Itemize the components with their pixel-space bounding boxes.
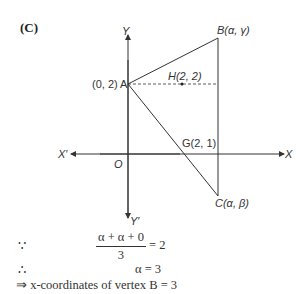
point-h-label: H(2, 2) xyxy=(168,70,202,82)
x-axis-label: X xyxy=(285,148,292,160)
point-g-label: G(2, 1) xyxy=(182,137,216,149)
origin-label: O xyxy=(114,158,123,170)
centroid-equation: α + α + 0 3 = 2 xyxy=(96,230,166,263)
therefore-symbol: ∴ xyxy=(18,262,26,278)
y-axis-label: Y xyxy=(122,25,129,37)
x-neg-axis-label: X′ xyxy=(58,148,67,160)
equation-rhs: = 2 xyxy=(149,238,165,252)
fraction: α + α + 0 3 xyxy=(96,230,146,263)
because-symbol: ∵ xyxy=(18,238,26,254)
alpha-result: α = 3 xyxy=(135,262,161,277)
fraction-denominator: 3 xyxy=(96,247,146,263)
point-c-label: C(α, β) xyxy=(215,197,249,209)
point-b-label: B(α, γ) xyxy=(217,24,250,36)
conclusion-line: ⇒ x-coordinates of vertex B = 3 xyxy=(16,277,177,293)
y-neg-axis-label: Y′ xyxy=(130,215,139,227)
fraction-numerator: α + α + 0 xyxy=(96,230,146,247)
point-a-label: (0, 2) A xyxy=(92,78,127,90)
